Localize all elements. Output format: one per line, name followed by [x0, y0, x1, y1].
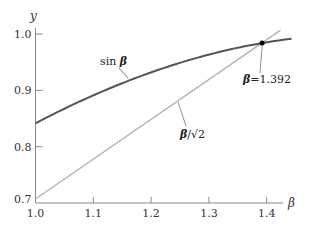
intersection-label: β=1.392 — [242, 73, 291, 86]
sin-label-leader — [119, 68, 128, 78]
chart: y β 1.01.11.21.31.4 0.70.80.91.0 sin β β… — [0, 0, 309, 230]
y-tick-label: 0.7 — [14, 193, 32, 206]
y-axis-label: y — [29, 9, 37, 23]
x-tick-label: 1.2 — [142, 207, 160, 220]
intersection-leader — [260, 42, 263, 73]
y-ticks: 0.70.80.91.0 — [14, 28, 43, 206]
y-tick-label: 0.9 — [14, 84, 32, 97]
intersection-point — [260, 41, 265, 46]
x-tick-label: 1.1 — [85, 207, 103, 220]
y-tick-label: 0.8 — [14, 141, 32, 154]
x-axis-label: β — [287, 196, 295, 210]
x-tick-label: 1.0 — [27, 207, 45, 220]
line-label-leader — [178, 102, 186, 126]
y-tick-label: 1.0 — [14, 28, 32, 41]
beta-root2-label: β/√2 — [179, 128, 205, 141]
x-ticks: 1.01.11.21.31.4 — [27, 197, 276, 220]
x-tick-label: 1.3 — [200, 207, 218, 220]
x-tick-label: 1.4 — [258, 207, 276, 220]
beta-over-root2-line — [36, 30, 281, 199]
sin-beta-label: sin β — [100, 55, 128, 68]
